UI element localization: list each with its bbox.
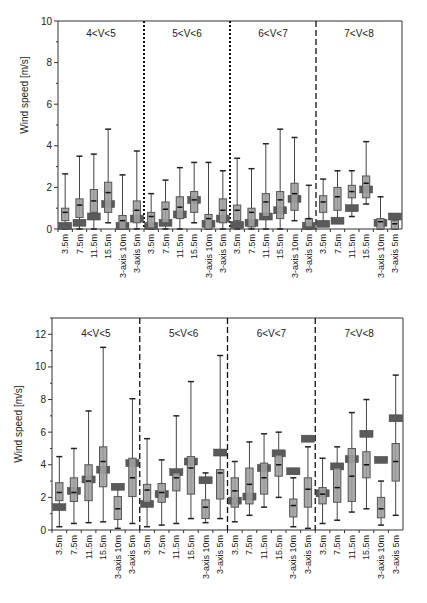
x-category-label: 11.5m (84, 535, 94, 559)
box-item (272, 432, 285, 497)
x-category-label: 3-axis 10m (376, 234, 386, 278)
box-item (184, 382, 197, 519)
y-tick-label: 2 (46, 182, 52, 193)
x-category-label: 7.5m (333, 234, 343, 254)
reference-marker (345, 205, 358, 212)
group-label: 7<V<8 (344, 328, 374, 339)
box-item (53, 457, 66, 527)
x-category-label: 3-axis 10m (201, 535, 211, 579)
box-plot-figure: 0246810Wind speed [m/s]4<V<55<V<66<V<77<… (0, 0, 427, 603)
reference-marker (111, 483, 124, 490)
x-category-label: 11.5m (171, 535, 181, 559)
x-category-label: 3-axis 5m (390, 234, 400, 273)
box-item (389, 375, 402, 515)
box-item (288, 137, 301, 220)
x-category-label: 3-axis 10m (376, 535, 386, 579)
x-category-label: 15.5m (361, 234, 371, 259)
x-category-label: 7.5m (75, 234, 85, 254)
x-category-label: 3.5m (318, 535, 328, 555)
x-category-label: 15.5m (274, 535, 284, 560)
x-category-label: 7.5m (244, 535, 254, 555)
box-item (374, 197, 387, 229)
y-tick-label: 10 (41, 16, 53, 27)
box-item (202, 162, 215, 229)
group-label: 6<V<7 (257, 328, 287, 339)
box-item (257, 434, 270, 507)
x-category-label: 3.5m (60, 234, 70, 254)
x-category-label: 3-axis 5m (304, 234, 314, 273)
reference-marker (317, 220, 330, 227)
group-label: 5<V<6 (172, 28, 202, 39)
y-tick-label: 0 (46, 224, 52, 235)
x-category-label: 7.5m (157, 535, 167, 555)
y-axis-label: Wind speed [m/s] (19, 56, 30, 133)
x-category-label: 3-axis 5m (127, 535, 137, 574)
box-item (287, 468, 300, 527)
x-category-label: 3-axis 10m (204, 234, 214, 278)
box-item (67, 448, 80, 523)
reference-marker (287, 468, 300, 475)
box-item (159, 180, 172, 229)
reference-marker (199, 477, 212, 484)
reference-marker (360, 430, 373, 437)
box-item (111, 483, 124, 528)
box-item (360, 400, 373, 509)
x-category-label: 3.5m (146, 234, 156, 254)
box-item (87, 154, 100, 229)
box-item (130, 151, 143, 229)
box-item (59, 174, 72, 230)
box-item (316, 458, 329, 523)
x-category-label: 15.5m (103, 234, 113, 259)
x-category-label: 7.5m (69, 535, 79, 555)
x-category-label: 3.5m (318, 234, 328, 254)
reference-marker (374, 456, 387, 463)
y-tick-label: 10 (35, 361, 47, 372)
box-item (345, 171, 358, 217)
box-item (173, 168, 186, 229)
reference-marker (388, 213, 401, 220)
group-label: 7<V<8 (344, 28, 374, 39)
reference-marker (59, 222, 72, 229)
y-tick-label: 6 (46, 99, 52, 110)
reference-marker (389, 415, 402, 422)
box-item (170, 416, 183, 524)
box-item (116, 175, 129, 229)
x-category-label: 3-axis 10m (118, 234, 128, 278)
top-box-chart: 0246810Wind speed [m/s]4<V<55<V<66<V<77<… (19, 16, 402, 279)
x-category-label: 11.5m (347, 234, 357, 258)
y-tick-label: 8 (40, 394, 46, 405)
box-item (102, 129, 115, 223)
box-item (317, 179, 330, 227)
box-item (274, 129, 287, 229)
box-item (360, 142, 373, 204)
box-item (140, 439, 153, 527)
reference-marker (301, 435, 314, 442)
box-item (302, 185, 315, 229)
x-category-label: 15.5m (189, 234, 199, 259)
reference-marker (73, 219, 86, 226)
box-item (216, 171, 229, 229)
x-category-label: 3-axis 5m (391, 535, 401, 574)
x-category-label: 11.5m (175, 234, 185, 258)
box-item (345, 413, 358, 512)
reference-marker (53, 504, 66, 511)
y-tick-label: 12 (35, 329, 47, 340)
y-axis-label: Wind speed [m/s] (13, 385, 24, 462)
x-category-label: 3.5m (54, 535, 64, 555)
x-category-label: 15.5m (275, 234, 285, 259)
x-category-label: 3-axis 5m (218, 234, 228, 273)
y-tick-label: 2 (40, 492, 46, 503)
y-tick-label: 8 (46, 57, 52, 68)
box-item (73, 156, 86, 229)
group-label: 5<V<6 (169, 328, 199, 339)
x-category-label: 3-axis 10m (113, 535, 123, 579)
y-tick-label: 4 (40, 459, 46, 470)
group-label: 4<V<5 (81, 328, 111, 339)
reference-marker (87, 213, 100, 220)
box-item (126, 399, 139, 524)
box-item (388, 213, 401, 229)
reference-marker (214, 449, 227, 456)
box-item (301, 435, 314, 528)
x-category-label: 7.5m (332, 535, 342, 555)
x-category-label: 3-axis 5m (215, 535, 225, 574)
